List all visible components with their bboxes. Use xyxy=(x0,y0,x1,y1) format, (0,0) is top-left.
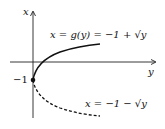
upper-curve-label: x = g(y) = −1 + √y xyxy=(50,29,146,40)
vertex-label: −1 xyxy=(13,74,28,85)
parabola-diagram xyxy=(0,0,165,129)
vertex-point xyxy=(31,78,36,83)
vertical-axis-label: x xyxy=(23,6,29,17)
lower-curve-label: x = −1 − √y xyxy=(85,98,147,109)
horizontal-axis-label: y xyxy=(148,66,154,77)
